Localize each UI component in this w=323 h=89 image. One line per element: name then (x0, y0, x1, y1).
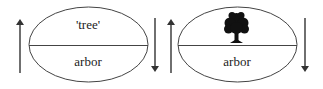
saussure-sign-diagram (0, 0, 323, 89)
sign-right (171, 7, 305, 82)
signifier-label: arbor (207, 54, 267, 70)
tree-icon (224, 12, 249, 43)
signified-label: 'tree' (58, 17, 118, 33)
signifier-label: arbor (58, 54, 118, 70)
